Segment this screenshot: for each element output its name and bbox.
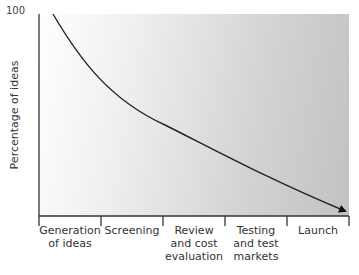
category-generation-of-ideas: Generation of ideas (39, 224, 101, 250)
category-review-cost-evaluation: Review and cost evaluation (163, 224, 225, 263)
category-testing-test-markets: Testing and test markets (225, 224, 287, 263)
ideas-decay-curve (53, 14, 345, 211)
y-tick-100: 100 (6, 5, 25, 16)
category-screening: Screening (101, 224, 163, 237)
y-axis-label: Percentage of ideas (8, 61, 21, 170)
category-launch: Launch (287, 224, 349, 237)
